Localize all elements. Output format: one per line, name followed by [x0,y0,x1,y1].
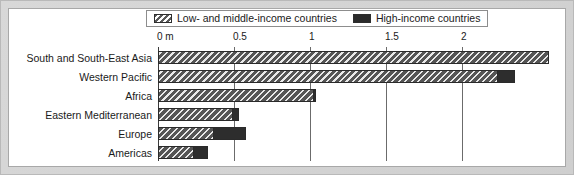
y-category-label: Eastern Mediterranean [45,110,152,121]
legend-entry-high-income: High-income countries [353,13,480,24]
bar-segment-low-middle-income [158,127,213,140]
bar-row [158,51,549,64]
legend-label-high-income: High-income countries [376,13,480,24]
bar-segment-low-middle-income [158,108,232,121]
bar-segment-low-middle-income [158,89,313,102]
y-category-label: Europe [118,129,152,140]
bar-segment-high-income [232,108,238,121]
gridline-0-m [158,47,159,161]
bar-row [158,108,239,121]
hatch-swatch-icon [154,14,172,23]
bar-segment-low-middle-income [158,70,497,83]
bar-segment-high-income [193,146,208,159]
y-category-label: Western Pacific [79,72,152,83]
solid-swatch-icon [353,14,371,23]
bar-row [158,89,316,102]
bar-segment-low-middle-income [158,146,193,159]
gridline-2 [462,47,463,161]
y-category-label: South and South-East Asia [26,53,152,64]
bar-segment-high-income [497,70,515,83]
y-axis-category-labels: South and South-East AsiaWestern Pacific… [8,47,156,161]
bar-row [158,146,208,159]
plot-area [158,47,544,161]
bar-segment-high-income [313,89,316,102]
bar-segment-high-income [213,127,246,140]
bar-row [158,127,246,140]
gridline-0-5 [234,47,235,161]
chart-legend: Low- and middle-income countries High-in… [146,10,488,27]
legend-label-low-middle-income: Low- and middle-income countries [177,13,337,24]
chart-figure: Low- and middle-income countries High-in… [0,0,574,175]
bar-row [158,70,515,83]
legend-entry-low-middle-income: Low- and middle-income countries [154,13,337,24]
gridline-1-5 [386,47,387,161]
y-category-label: Africa [125,91,152,102]
gridline-1 [310,47,311,161]
bar-segment-low-middle-income [158,51,549,64]
y-category-label: Americas [108,148,152,159]
